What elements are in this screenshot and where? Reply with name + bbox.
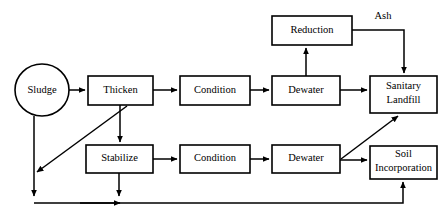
dewater-bottom-label: Dewater [288,152,324,163]
flow-diagram-canvas: Sludge Thicken Condition Dewater Reducti… [0,0,448,224]
node-thicken[interactable]: Thicken [88,76,153,105]
node-dewater-top[interactable]: Dewater [272,76,340,105]
reduction-label: Reduction [290,24,334,35]
thicken-label: Thicken [103,84,138,95]
node-sludge[interactable]: Sludge [15,64,69,116]
dewater-top-label: Dewater [288,84,324,95]
stabilize-label: Stabilize [101,152,138,163]
sanitary-landfill-label-line1: Sanitary [386,80,422,91]
condition-bottom-label: Condition [194,152,237,163]
node-soil-incorporation[interactable]: Soil Incorporation [370,146,437,179]
node-dewater-bottom[interactable]: Dewater [272,145,340,173]
edge-reduction-to-sanitary-landfill-ash [352,30,404,73]
node-condition-bottom[interactable]: Condition [180,145,250,173]
node-sanitary-landfill[interactable]: Sanitary Landfill [370,76,437,113]
node-stabilize[interactable]: Stabilize [86,145,153,173]
soil-incorporation-label-line2: Incorporation [375,162,433,173]
node-condition-top[interactable]: Condition [180,76,250,105]
edge-label-layer: Ash [375,10,393,21]
condition-top-label: Condition [194,84,237,95]
node-layer: Sludge Thicken Condition Dewater Reducti… [15,16,437,179]
sanitary-landfill-label-line2: Landfill [387,94,421,105]
sludge-label: Sludge [27,84,57,95]
soil-incorporation-label-line1: Soil [395,148,412,159]
edge-layer [34,30,404,203]
ash-label: Ash [375,10,393,21]
node-reduction[interactable]: Reduction [272,16,352,45]
flow-diagram-svg: Sludge Thicken Condition Dewater Reducti… [0,0,448,224]
edge-return-line-to-soil-incorporation [34,182,403,203]
